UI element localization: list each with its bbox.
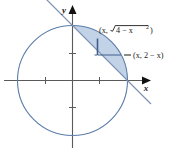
upper-label-exponent: 2: [146, 24, 149, 30]
upper-label-radicand: 4 − x: [116, 26, 133, 35]
x-axis-label: x: [143, 83, 149, 93]
upper-label-suffix: ): [150, 26, 153, 35]
upper-point-label: (x, 4 − x 2 ): [99, 24, 153, 36]
y-axis-arrow-icon: [69, 5, 77, 14]
upper-label-prefix: (x,: [99, 26, 108, 35]
figure-container: x y (x, 4 − x 2 ) (x, 2 − x): [0, 0, 170, 155]
lower-point-label: (x, 2 − x): [133, 51, 164, 60]
y-axis-label: y: [61, 5, 67, 15]
segment-foot-marker: [95, 52, 98, 55]
plot-svg: x y (x, 4 − x 2 ) (x, 2 − x): [0, 0, 170, 155]
